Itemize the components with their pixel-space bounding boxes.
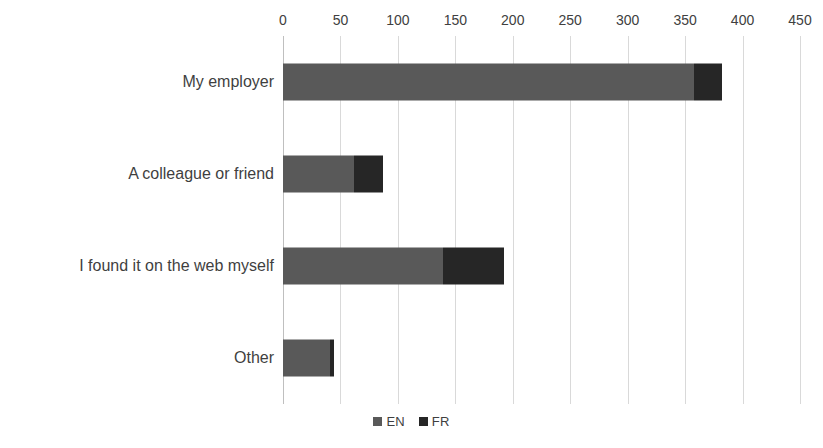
- bar-row: [283, 248, 504, 285]
- x-tick-label-100: 100: [386, 12, 409, 28]
- bar-row: [283, 340, 334, 377]
- x-tick-label-400: 400: [731, 12, 754, 28]
- x-tick-label-250: 250: [559, 12, 582, 28]
- bar-segment-fr: [330, 340, 333, 377]
- bar-segment-fr: [443, 248, 504, 285]
- bar-segment-en: [283, 156, 354, 193]
- gridline-450: [800, 36, 801, 404]
- bar-row: [283, 156, 383, 193]
- chart-legend: ENFR: [0, 414, 823, 429]
- legend-label: FR: [432, 414, 450, 429]
- x-tick-label-0: 0: [279, 12, 287, 28]
- bar-segment-en: [283, 340, 330, 377]
- x-tick-label-200: 200: [501, 12, 524, 28]
- category-label-1: A colleague or friend: [0, 165, 274, 183]
- bar-segment-fr: [694, 64, 722, 101]
- x-tick-label-150: 150: [444, 12, 467, 28]
- bar-segment-en: [283, 64, 694, 101]
- legend-item-en[interactable]: EN: [373, 414, 404, 429]
- bar-segment-en: [283, 248, 443, 285]
- x-tick-label-50: 50: [333, 12, 349, 28]
- legend-item-fr[interactable]: FR: [419, 414, 450, 429]
- category-label-0: My employer: [0, 73, 274, 91]
- legend-swatch-icon: [419, 417, 428, 426]
- x-tick-label-450: 450: [788, 12, 811, 28]
- x-tick-label-350: 350: [673, 12, 696, 28]
- legend-label: EN: [386, 414, 404, 429]
- stacked-bar-chart: 050100150200250300350400450 My employerA…: [0, 0, 823, 448]
- category-label-3: Other: [0, 349, 274, 367]
- x-tick-label-300: 300: [616, 12, 639, 28]
- bar-segment-fr: [354, 156, 383, 193]
- gridline-400: [743, 36, 744, 404]
- category-label-2: I found it on the web myself: [0, 257, 274, 275]
- legend-swatch-icon: [373, 417, 382, 426]
- bar-row: [283, 64, 722, 101]
